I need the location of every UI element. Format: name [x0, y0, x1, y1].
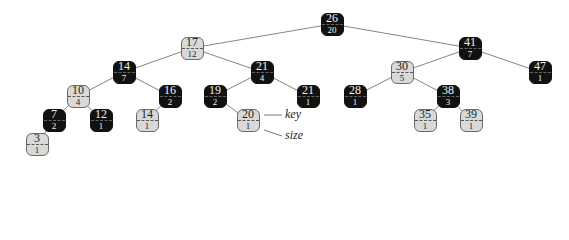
size-pointer-line — [264, 130, 282, 136]
key-legend-label: key — [285, 107, 301, 122]
size-legend-label: size — [285, 128, 303, 143]
